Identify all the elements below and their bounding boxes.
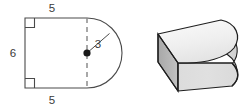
center-point-dot bbox=[83, 49, 90, 56]
label-bottom-side: 5 bbox=[49, 94, 55, 106]
figure-canvas: 5 6 5 3 bbox=[0, 0, 251, 107]
geometry-figure: 5 6 5 3 bbox=[0, 0, 251, 107]
cross-section-group: 5 6 5 3 bbox=[10, 2, 122, 106]
label-left-side: 6 bbox=[10, 47, 16, 59]
solid-group bbox=[158, 20, 238, 91]
solid-front-face bbox=[178, 63, 238, 91]
label-top-side: 5 bbox=[49, 2, 55, 14]
label-radius: 3 bbox=[95, 38, 101, 50]
cross-section-outline bbox=[25, 18, 122, 88]
